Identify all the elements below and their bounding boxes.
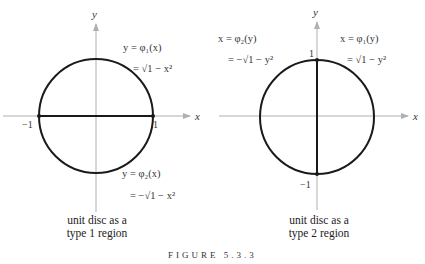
left-tick-pos1: 1 <box>153 119 158 130</box>
figure-caption: FIGURE 5.3.3 <box>0 250 425 260</box>
right-panel-caption: unit disc as a type 2 region <box>280 214 358 240</box>
left-panel: x y −1 1 y = φ₁(x) = √1 − x² y = φ₂(x) =… <box>3 8 200 212</box>
left-caption-line1: unit disc as a <box>58 214 136 227</box>
left-point-pos1 <box>151 114 155 118</box>
right-point-neg1 <box>315 172 319 176</box>
right-panel: x y 1 −1 x = φ₂(y) = −√1 − y² x = φ₁(y) … <box>218 6 418 210</box>
right-right-equation-line1: x = φ₁(y) <box>340 33 379 45</box>
right-point-pos1 <box>315 58 319 62</box>
right-left-equation-line2: = −√1 − y² <box>228 54 273 65</box>
left-panel-caption: unit disc as a type 1 region <box>58 214 136 240</box>
left-point-neg1 <box>37 114 41 118</box>
left-caption-line2: type 1 region <box>58 227 136 240</box>
right-right-equation-line2: = √1 − y² <box>347 54 386 65</box>
left-top-equation-line1: y = φ₁(x) <box>123 42 162 54</box>
left-x-axis-label: x <box>194 110 200 122</box>
right-x-axis-label: x <box>412 110 418 122</box>
right-tick-pos1: 1 <box>309 48 314 59</box>
right-caption-line1: unit disc as a <box>280 214 358 227</box>
left-y-axis-label: y <box>91 8 97 20</box>
right-caption-line2: type 2 region <box>280 227 358 240</box>
right-tick-neg1: −1 <box>300 179 311 190</box>
right-y-axis-label: y <box>312 6 318 18</box>
left-bottom-equation-line2: = −√1 − x² <box>130 190 175 201</box>
left-tick-neg1: −1 <box>22 119 33 130</box>
right-left-equation-line1: x = φ₂(y) <box>218 33 257 45</box>
left-bottom-equation-line1: y = φ₂(x) <box>122 168 161 180</box>
left-top-equation-line2: = √1 − x² <box>133 63 172 74</box>
